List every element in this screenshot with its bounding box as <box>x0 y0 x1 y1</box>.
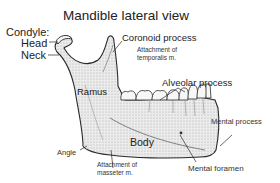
masseter-line-1: Attachment of <box>97 161 137 169</box>
label-ramus: Ramus <box>77 87 107 97</box>
temporalis-line-2: temporalis m. <box>137 54 177 62</box>
label-body: Body <box>130 137 154 148</box>
label-neck: Neck <box>21 50 46 61</box>
label-mental-foramen: Mental foramen <box>188 164 244 174</box>
label-coronoid-process: Coronoid process <box>122 33 196 43</box>
label-temporalis-attachment: Attachment of temporalis m. <box>137 46 177 62</box>
diagram-title: Mandible lateral view <box>63 9 189 23</box>
mental-foramen-mark <box>180 132 183 135</box>
label-mental-process: Mental process <box>211 117 262 126</box>
mandible-diagram: Mandible lateral view Condyle: Head Neck… <box>0 0 280 183</box>
label-masseter-attachment: Attachment of masseter m. <box>97 161 137 177</box>
temporalis-line-1: Attachment of <box>137 46 177 54</box>
label-alveolar-process: Alveolar process <box>162 78 232 88</box>
label-angle: Angle <box>57 148 76 157</box>
label-head: Head <box>21 38 47 49</box>
masseter-line-2: masseter m. <box>97 169 137 177</box>
